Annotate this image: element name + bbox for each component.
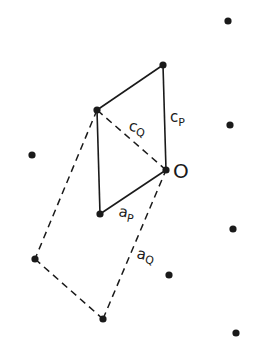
lattice-point: [224, 17, 231, 24]
origin-label: O: [173, 159, 189, 183]
lattice-point: [159, 61, 166, 68]
cell-edge-top: [97, 65, 163, 110]
label-a-p: aP: [117, 202, 137, 225]
lattice-point: [93, 106, 100, 113]
label-c-q: cQ: [126, 116, 148, 140]
vector-c-p: [163, 65, 166, 170]
vector-a-q: [103, 170, 166, 319]
lattice-point: [28, 151, 35, 158]
cell-edge-left: [97, 110, 100, 214]
cell-q-edge-left: [35, 110, 97, 259]
label-a-q: aQ: [135, 244, 157, 267]
lattice-point: [226, 121, 233, 128]
lattice-points: [28, 17, 239, 336]
lattice-point: [165, 271, 172, 278]
lattice-point: [31, 255, 38, 262]
lattice-point: [96, 210, 103, 217]
cell-p-solid: [97, 65, 166, 214]
label-c-p: cP: [170, 108, 185, 129]
lattice-point: [232, 329, 239, 336]
lattice-point: [99, 315, 106, 322]
lattice-point: [229, 225, 236, 232]
lattice-diagram: O cP cQ aP aQ: [0, 0, 254, 354]
origin-point: [162, 166, 169, 173]
cell-q-edge-bottom: [35, 259, 103, 319]
